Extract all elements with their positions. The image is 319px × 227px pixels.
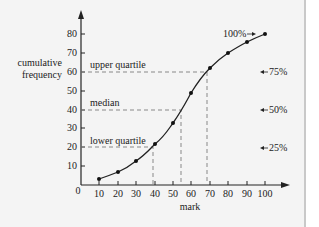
y-tick-label: 70 [67, 47, 77, 58]
y-tick-label: 30 [67, 122, 77, 133]
data-point [245, 40, 249, 44]
x-tick-label: 60 [186, 188, 196, 199]
x-tick-label: 40 [150, 188, 160, 199]
x-tick-label: 100 [258, 188, 273, 199]
data-points [97, 32, 267, 181]
data-point [116, 170, 120, 174]
y-tick-label: 50 [67, 85, 77, 96]
pct25-arrowhead-icon [260, 146, 264, 150]
data-point [171, 121, 175, 125]
y-tick-label: 20 [67, 141, 77, 152]
y-tick-label: 60 [67, 66, 77, 77]
x-tick-label: 10 [94, 188, 104, 199]
data-point [134, 159, 138, 163]
x-tick-label: 30 [131, 188, 141, 199]
pct25-label: 25% [269, 142, 287, 153]
data-point [189, 91, 193, 95]
upper-quartile-label: upper quartile [90, 59, 146, 70]
pct100-label: 100% [223, 28, 246, 39]
cumulative-frequency-curve [99, 34, 265, 179]
upper-quartile-guide [81, 72, 207, 185]
data-point [153, 142, 157, 146]
y-tick-label: 80 [67, 28, 77, 39]
pct100-arrowhead-icon [252, 32, 256, 36]
cumulative-frequency-chart: 10 20 30 40 50 60 70 80 10 20 30 40 50 6… [0, 0, 319, 227]
data-point [263, 32, 267, 36]
y-tick-label: 10 [67, 160, 77, 171]
origin-label: 0 [76, 185, 81, 196]
pct75-label: 75% [269, 66, 287, 77]
x-axis-arrow-icon [281, 182, 290, 188]
data-point [226, 51, 230, 55]
pct75-arrowhead-icon [260, 70, 264, 74]
pct50-arrowhead-icon [260, 108, 264, 112]
median-label: median [90, 97, 119, 108]
y-axis-label-line2: frequency [22, 69, 62, 80]
x-tick-labels: 10 20 30 40 50 60 70 80 90 100 [94, 188, 273, 199]
quartile-guides [81, 72, 207, 185]
x-tick-label: 80 [223, 188, 233, 199]
lower-quartile-guide [81, 147, 153, 185]
x-tick-label: 70 [205, 188, 215, 199]
pct50-label: 50% [269, 104, 287, 115]
lower-quartile-label: lower quartile [90, 135, 146, 146]
x-tick-label: 50 [168, 188, 178, 199]
data-point [208, 66, 212, 70]
x-tick-label: 20 [113, 188, 123, 199]
x-axis-label: mark [180, 201, 201, 212]
y-axis-label-line1: cumulative [18, 57, 63, 68]
y-tick-labels: 10 20 30 40 50 60 70 80 [67, 28, 77, 171]
x-tick-label: 90 [242, 188, 252, 199]
percentage-markers: 75% 50% 25% [260, 66, 287, 153]
data-point [97, 177, 101, 181]
y-axis-arrow-icon [78, 10, 84, 19]
y-tick-label: 40 [67, 104, 77, 115]
